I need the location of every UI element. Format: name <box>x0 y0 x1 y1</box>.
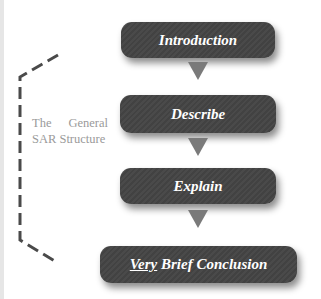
label-rest: Brief Conclusion <box>157 256 267 272</box>
step-describe: Describe <box>120 95 276 133</box>
down-arrow-icon <box>188 138 208 156</box>
step-label: Describe <box>171 106 225 123</box>
label-line-1: The General <box>32 115 108 131</box>
step-explain: Explain <box>120 168 276 204</box>
step-label: Explain <box>173 178 222 195</box>
label-line-2: SAR Structure <box>32 131 108 147</box>
down-arrow-icon <box>188 210 208 228</box>
step-introduction: Introduction <box>121 22 275 58</box>
step-label: Introduction <box>159 32 237 49</box>
structure-label: The General SAR Structure <box>32 115 108 147</box>
down-arrow-icon <box>188 62 208 80</box>
emphasis-word: Very <box>130 256 158 272</box>
step-label: Very Brief Conclusion <box>130 256 268 273</box>
step-conclusion: Very Brief Conclusion <box>100 246 297 283</box>
